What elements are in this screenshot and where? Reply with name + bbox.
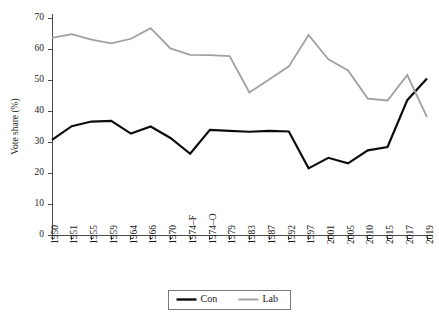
x-tick-label: 1987	[267, 225, 277, 244]
x-tick-label: 2001	[326, 225, 336, 244]
y-axis: 010203040506070	[35, 12, 53, 239]
y-tick-label: 40	[35, 105, 45, 115]
y-tick-label: 50	[35, 74, 45, 84]
series-lines	[52, 28, 427, 168]
x-tick-label: 2019	[425, 225, 435, 244]
x-tick-label: 2005	[346, 225, 356, 244]
x-tick-label: 1964	[129, 225, 139, 244]
x-tick-label: 1992	[287, 225, 297, 244]
x-tick-label: 1951	[69, 225, 79, 244]
x-tick-label: 1983	[247, 225, 257, 244]
legend-label-lab: Lab	[263, 293, 279, 304]
y-tick-label: 30	[35, 136, 45, 146]
x-axis: 19501951195519591964196619701974–F1974–O…	[50, 213, 435, 244]
y-tick-label: 10	[35, 198, 45, 208]
x-tick-label: 2017	[405, 225, 415, 244]
x-tick-label: 1974–F	[188, 215, 198, 244]
vote-share-line-chart: 010203040506070 195019511955195919641966…	[0, 0, 439, 323]
chart-legend: ConLab	[169, 290, 291, 309]
x-tick-label: 1974–O	[208, 213, 218, 244]
x-tick-label: 2015	[385, 225, 395, 244]
x-tick-label: 1997	[306, 225, 316, 244]
x-tick-label: 1955	[89, 225, 99, 244]
y-tick-label: 60	[35, 43, 45, 53]
x-tick-label: 1979	[227, 225, 237, 244]
x-tick-label: 2010	[365, 225, 375, 244]
legend-label-con: Con	[201, 293, 218, 304]
x-tick-label: 1950	[50, 225, 60, 244]
x-tick-label: 1966	[148, 225, 158, 244]
x-tick-label: 1970	[168, 225, 178, 244]
x-tick-label: 1959	[109, 225, 119, 244]
y-axis-title: Vote share (%)	[10, 98, 21, 154]
chart-plot-area: 010203040506070 195019511955195919641966…	[0, 0, 439, 323]
series-line-lab	[52, 28, 427, 117]
y-tick-label: 20	[35, 167, 45, 177]
y-tick-label: 0	[39, 229, 44, 239]
y-tick-label: 70	[35, 12, 45, 22]
series-line-con	[52, 78, 427, 168]
